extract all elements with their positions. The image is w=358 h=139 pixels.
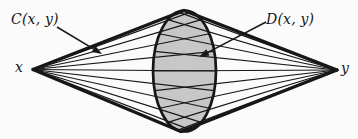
double-cone-figure: C(x, y) D(x, y) x y xyxy=(0,0,358,139)
disk-label-D: D(x, y) xyxy=(266,12,314,26)
vertex-label-x: x xyxy=(15,60,23,74)
vertex-label-y: y xyxy=(341,61,349,75)
cone-label-C: C(x, y) xyxy=(11,12,59,26)
